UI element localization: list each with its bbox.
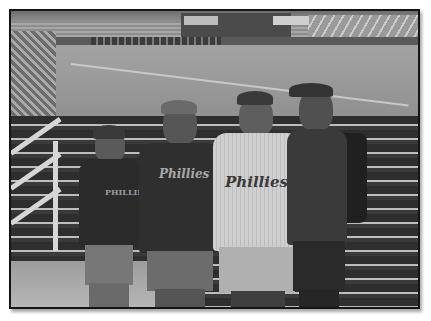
shorts [293, 241, 345, 291]
dark-tshirt [79, 159, 141, 247]
scoreboard-panel [184, 16, 218, 25]
person-far-right [283, 81, 373, 309]
scoreboard-panel [273, 16, 309, 25]
shorts [85, 245, 133, 285]
jersey-lettering: Phillies [225, 173, 288, 191]
dark-tshirt [287, 129, 347, 245]
cap [161, 100, 197, 114]
shirt-logo: Phillies [159, 167, 209, 181]
shorts [147, 251, 213, 291]
person-center-left: Phillies [135, 95, 220, 309]
legs [89, 283, 129, 309]
cap [289, 83, 333, 97]
legs [299, 289, 339, 309]
dark-tshirt [139, 143, 219, 253]
legs [155, 289, 205, 309]
cap [237, 91, 273, 105]
photo-frame: PHILLIES Phillies Phillies [9, 9, 420, 309]
outfield-wall-signage [91, 37, 221, 45]
legs [231, 291, 285, 309]
cap [93, 125, 125, 139]
railing-post [53, 141, 58, 251]
scoreboard [181, 13, 291, 39]
person-far-left: PHILLIES [73, 123, 143, 309]
stair-railing [11, 141, 71, 301]
